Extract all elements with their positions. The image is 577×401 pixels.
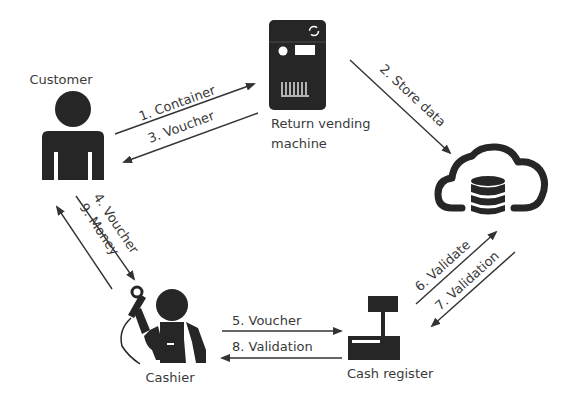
cashier-label: Cashier [145,370,195,385]
customer-node: Customer [29,72,104,180]
cash-register-node: Cash register [347,296,434,381]
person-icon [42,91,104,180]
edge-label-5: 5. Voucher [232,313,302,328]
deposit-return-flow-diagram: Customer Return vending mac [0,0,577,401]
cashier-with-scanner-icon [121,287,206,364]
return-vending-machine-label-line2: machine [271,136,327,151]
edge-label-8: 8. Validation [232,339,313,354]
edge-2-store-data: 2. Store data [350,60,450,153]
cloud-database-node [438,147,545,215]
edge-8-validation: 8. Validation [222,339,342,358]
edge-5-voucher: 5. Voucher [222,313,341,331]
return-vending-machine-label-line1: Return vending [271,116,371,131]
vending-machine-icon [269,20,326,110]
cashier-node: Cashier [121,287,206,385]
customer-label: Customer [29,72,93,87]
cash-register-label: Cash register [347,366,434,381]
return-vending-machine-node: Return vending machine [269,20,371,151]
cloud-database-icon [438,147,545,215]
cash-register-icon [348,296,400,360]
